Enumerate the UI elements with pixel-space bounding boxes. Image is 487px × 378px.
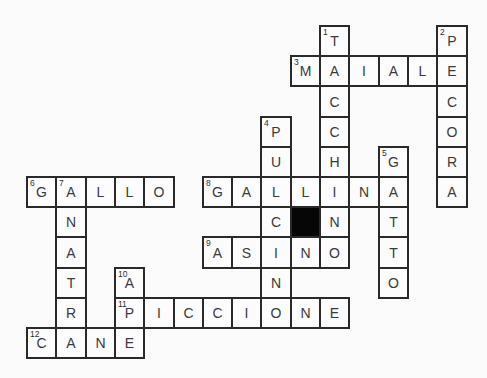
grid-cell[interactable]: C — [319, 116, 350, 148]
grid-cell[interactable]: C — [202, 297, 233, 329]
cell-letter: A — [213, 246, 222, 260]
grid-cell[interactable]: E — [436, 55, 468, 87]
grid-cell[interactable]: E — [319, 297, 350, 329]
cell-letter: T — [389, 215, 398, 229]
grid-cell[interactable]: L — [114, 176, 145, 208]
grid-cell[interactable]: 10A — [114, 267, 145, 299]
crossword-puzzle: 1T2P3MAIALECC4PCOUH5GR6G7ALLO8GALLINAANC… — [0, 0, 487, 378]
grid-cell[interactable]: O — [319, 236, 350, 269]
cell-letter: A — [66, 246, 75, 260]
grid-cell[interactable]: 7A — [55, 176, 87, 208]
grid-cell[interactable]: N — [85, 327, 116, 359]
cell-letter: E — [125, 336, 134, 350]
cell-letter: A — [389, 64, 398, 78]
grid-cell[interactable]: C — [173, 297, 204, 329]
cell-letter: C — [183, 306, 193, 320]
cell-letter: C — [271, 215, 281, 229]
black-cell — [290, 206, 321, 238]
grid-cell[interactable]: O — [260, 297, 292, 329]
grid-cell[interactable]: O — [143, 176, 175, 208]
cell-letter: C — [329, 125, 339, 139]
grid-cell[interactable]: 9A — [202, 236, 233, 269]
grid-cell[interactable]: L — [290, 176, 321, 208]
grid-cell[interactable]: T — [55, 267, 87, 299]
grid-cell[interactable]: A — [231, 176, 262, 208]
grid-cell[interactable]: C — [319, 85, 350, 118]
cell-letter: U — [271, 155, 281, 169]
clue-number: 10 — [118, 270, 127, 279]
grid-cell[interactable]: C — [260, 206, 292, 238]
cell-letter: C — [447, 95, 457, 109]
clue-number: 9 — [206, 239, 211, 248]
grid-cell[interactable]: T — [378, 206, 409, 238]
grid-cell[interactable]: A — [378, 55, 409, 87]
cell-letter: I — [157, 306, 161, 320]
grid-cell[interactable]: 8G — [202, 176, 233, 208]
cell-letter: I — [362, 64, 366, 78]
cell-letter: O — [388, 276, 399, 290]
grid-cell[interactable]: 11P — [114, 297, 145, 329]
cell-letter: L — [272, 185, 280, 199]
grid-cell[interactable]: N — [260, 267, 292, 299]
grid-cell[interactable]: 5G — [378, 146, 409, 178]
cell-letter: T — [330, 34, 339, 48]
grid-cell[interactable]: E — [114, 327, 145, 359]
cell-letter: I — [333, 185, 337, 199]
grid-cell[interactable]: L — [407, 55, 438, 87]
cell-letter: O — [329, 246, 340, 260]
grid-cell[interactable]: A — [55, 327, 87, 359]
grid-cell[interactable]: A — [378, 176, 409, 208]
clue-number: 1 — [323, 28, 328, 37]
cell-letter: G — [36, 185, 47, 199]
grid-cell[interactable]: U — [260, 146, 292, 178]
cell-letter: P — [447, 34, 456, 48]
grid-cell[interactable]: N — [348, 176, 380, 208]
grid-cell[interactable]: 3M — [290, 55, 321, 87]
grid-cell[interactable]: C — [436, 85, 468, 118]
clue-number: 2 — [440, 28, 445, 37]
cell-letter: L — [419, 64, 427, 78]
grid-cell[interactable]: N — [290, 297, 321, 329]
cell-letter: A — [242, 185, 251, 199]
grid-cell[interactable]: N — [290, 236, 321, 269]
grid-cell[interactable]: 12C — [26, 327, 57, 359]
grid-cell[interactable]: A — [55, 236, 87, 269]
grid-cell[interactable]: A — [436, 176, 468, 208]
cell-letter: A — [66, 185, 75, 199]
grid-cell[interactable]: S — [231, 236, 262, 269]
grid-cell[interactable]: N — [55, 206, 87, 238]
grid-cell[interactable]: 1T — [319, 25, 350, 57]
grid-cell[interactable]: R — [436, 146, 468, 178]
cell-letter: N — [329, 215, 339, 229]
cell-letter: O — [154, 185, 165, 199]
grid-cell[interactable]: A — [319, 55, 350, 87]
cell-letter: E — [447, 64, 456, 78]
grid-cell[interactable]: N — [319, 206, 350, 238]
cell-letter: N — [300, 306, 310, 320]
grid-cell[interactable]: H — [319, 146, 350, 178]
grid-cell[interactable]: I — [319, 176, 350, 208]
clue-number: 5 — [382, 149, 387, 158]
grid-cell[interactable]: 2P — [436, 25, 468, 57]
grid-cell[interactable]: L — [85, 176, 116, 208]
clue-number: 11 — [118, 300, 127, 309]
cell-letter: L — [126, 185, 134, 199]
clue-number: 7 — [59, 179, 64, 188]
cell-letter: O — [447, 125, 458, 139]
grid-cell[interactable]: 6G — [26, 176, 57, 208]
grid-cell[interactable]: I — [231, 297, 262, 329]
cell-letter: N — [66, 215, 76, 229]
crossword-grid: 1T2P3MAIALECC4PCOUH5GR6G7ALLO8GALLINAANC… — [0, 0, 487, 378]
grid-cell[interactable]: I — [143, 297, 175, 329]
cell-letter: P — [271, 125, 280, 139]
cell-letter: L — [302, 185, 310, 199]
page: { "app": { "page_bg": "#fbfbfb" }, "grid… — [0, 0, 487, 378]
grid-cell[interactable]: R — [55, 297, 87, 329]
grid-cell[interactable]: I — [260, 236, 292, 269]
grid-cell[interactable]: L — [260, 176, 292, 208]
grid-cell[interactable]: O — [378, 267, 409, 299]
grid-cell[interactable]: O — [436, 116, 468, 148]
grid-cell[interactable]: T — [378, 236, 409, 269]
grid-cell[interactable]: 4P — [260, 116, 292, 148]
grid-cell[interactable]: I — [348, 55, 380, 87]
